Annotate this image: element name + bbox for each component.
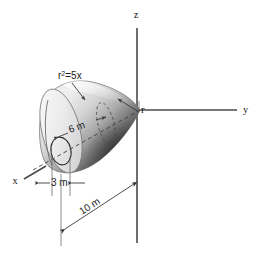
y-axis-label: y: [243, 104, 249, 115]
figure-svg: z y x: [0, 0, 265, 259]
x-axis-label: x: [12, 175, 18, 186]
dimension-10m: 10 m: [61, 174, 137, 246]
x-axis-line: [24, 166, 46, 179]
axis-system: z y: [134, 9, 249, 243]
paraboloid-solid: [32, 80, 154, 177]
equation-label-group: r2=5x: [58, 70, 82, 82]
dim-3m-label: 3 m: [51, 177, 68, 188]
dim-10m-line: [65, 182, 137, 229]
equation-rest: =5x: [65, 70, 81, 81]
radius-label: r: [141, 103, 145, 115]
figure-container: z y x: [0, 0, 265, 259]
z-axis-label: z: [134, 9, 139, 20]
